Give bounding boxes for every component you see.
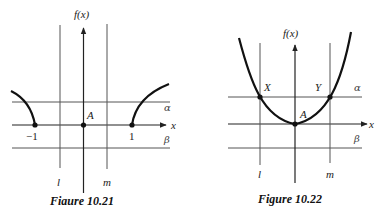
figure-caption: Figure 10.22 [257, 192, 322, 206]
point-Y-label: Y [315, 81, 323, 93]
figure-10-21: f(x) x α β A −1 1 l m Fiaure 10.21 [11, 8, 176, 208]
m-line-label: m [326, 168, 334, 180]
alpha-label: α [354, 82, 361, 93]
x-axis-label: x [368, 118, 374, 130]
one-label: 1 [129, 130, 135, 142]
point-A [81, 122, 86, 127]
beta-label: β [163, 134, 170, 145]
figures-canvas: f(x) x α β A −1 1 l m Fiaure 10.21 f(x) … [0, 0, 379, 210]
y-axis-label: f(x) [74, 8, 90, 21]
point-one [129, 122, 134, 127]
l-line-label: l [57, 176, 60, 188]
point-X-label: X [263, 81, 272, 93]
beta-label: β [353, 133, 360, 144]
y-axis-label: f(x) [283, 27, 299, 40]
m-line-label: m [103, 176, 111, 188]
figure-10-22: f(x) x α β X Y A l m Figure 10.22 [228, 27, 374, 206]
alpha-label: α [164, 102, 171, 113]
point-A [292, 121, 297, 126]
point-Y [327, 94, 332, 99]
neg-one-label: −1 [26, 130, 38, 142]
point-X [257, 94, 262, 99]
point-A-label: A [299, 108, 307, 120]
left-branch-curve [11, 91, 35, 125]
x-axis-label: x [170, 119, 176, 131]
l-line-label: l [258, 168, 261, 180]
point-A-label: A [86, 109, 94, 121]
figure-caption: Fiaure 10.21 [49, 194, 114, 208]
point-neg-one [32, 122, 37, 127]
